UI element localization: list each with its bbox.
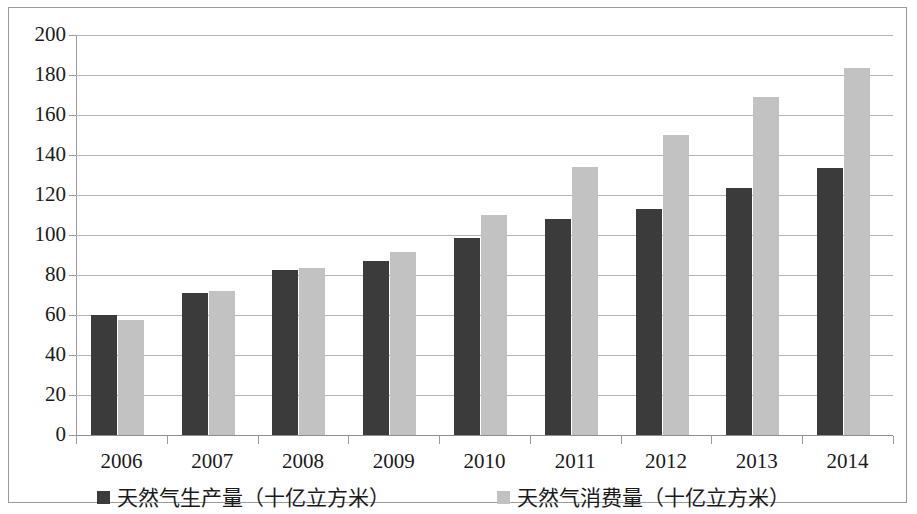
x-axis-tick	[258, 436, 259, 444]
x-axis-tick	[802, 436, 803, 444]
legend-entry[interactable]: 天然气消费量（十亿立方米）	[497, 481, 790, 514]
x-axis-tick	[893, 436, 894, 444]
x-axis-tick	[530, 436, 531, 444]
bar	[182, 293, 208, 435]
bar	[390, 252, 416, 435]
bar	[299, 268, 325, 435]
bar	[636, 209, 662, 435]
y-axis-label: 40	[10, 344, 66, 365]
bar	[726, 188, 752, 435]
x-axis-tick	[76, 436, 77, 444]
y-axis-tick	[69, 275, 76, 276]
x-axis-label: 2008	[258, 450, 349, 472]
bar	[844, 68, 870, 435]
y-axis-tick	[69, 155, 76, 156]
x-axis-tick	[711, 436, 712, 444]
y-axis-label: 180	[10, 64, 66, 85]
plot-area	[76, 35, 893, 435]
y-axis-tick	[69, 195, 76, 196]
y-axis-tick	[69, 35, 76, 36]
x-axis-label: 2014	[802, 450, 893, 472]
bar	[91, 315, 117, 435]
legend-label: 天然气生产量（十亿立方米）	[117, 486, 390, 510]
y-axis-label: 80	[10, 264, 66, 285]
y-axis-tick	[69, 75, 76, 76]
bar	[363, 261, 389, 435]
y-axis-label: 20	[10, 384, 66, 405]
x-axis-label: 2010	[439, 450, 530, 472]
gridline	[76, 435, 893, 436]
bar-chart: 200180160140120100806040200 200620072008…	[0, 0, 917, 514]
x-axis-label: 2013	[711, 450, 802, 472]
y-axis-label: 200	[10, 24, 66, 45]
chart-legend: 天然气生产量（十亿立方米）天然气消费量（十亿立方米）	[0, 481, 917, 514]
y-axis-label: 140	[10, 144, 66, 165]
bar	[817, 168, 843, 435]
legend-swatch-icon	[97, 491, 110, 504]
bar	[481, 215, 507, 435]
x-axis-label: 2006	[76, 450, 167, 472]
x-axis-tick	[348, 436, 349, 444]
y-axis-label: 100	[10, 224, 66, 245]
y-axis-label: 160	[10, 104, 66, 125]
gridline	[76, 75, 893, 76]
y-axis-tick	[69, 235, 76, 236]
legend-entry[interactable]: 天然气生产量（十亿立方米）	[97, 481, 390, 514]
x-axis-label: 2007	[167, 450, 258, 472]
gridline	[76, 35, 893, 36]
bar	[209, 291, 235, 435]
bar	[545, 219, 571, 435]
y-axis-tick	[69, 395, 76, 396]
legend-swatch-icon	[497, 491, 510, 504]
x-axis-label: 2011	[530, 450, 621, 472]
bar	[753, 97, 779, 435]
legend-label: 天然气消费量（十亿立方米）	[517, 486, 790, 510]
bar	[572, 167, 598, 435]
y-axis-tick	[69, 115, 76, 116]
y-axis-tick-labels: 200180160140120100806040200	[0, 0, 66, 514]
x-axis-tick	[439, 436, 440, 444]
bar	[272, 270, 298, 435]
y-axis-label: 0	[10, 424, 66, 445]
y-axis-tick	[69, 435, 76, 436]
y-axis-label: 120	[10, 184, 66, 205]
bar	[663, 135, 689, 435]
x-axis-tick	[167, 436, 168, 444]
bar	[454, 238, 480, 435]
bar	[118, 320, 144, 435]
y-axis-tick	[69, 315, 76, 316]
y-axis-label: 60	[10, 304, 66, 325]
x-axis-label: 2012	[621, 450, 712, 472]
x-axis-tick	[621, 436, 622, 444]
y-axis-tick	[69, 355, 76, 356]
x-axis-label: 2009	[348, 450, 439, 472]
